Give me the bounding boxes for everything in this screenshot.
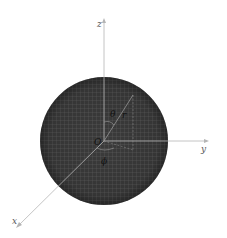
origin-label: O bbox=[94, 137, 102, 147]
r-label: r bbox=[122, 110, 127, 120]
theta-label: θ bbox=[110, 109, 116, 119]
z-axis-label: z bbox=[96, 19, 102, 29]
z-arrow-icon bbox=[102, 18, 106, 23]
spherical-coordinates-diagram: z y x O θ r ϕ bbox=[0, 0, 227, 238]
phi-label: ϕ bbox=[101, 156, 107, 166]
y-arrow-icon bbox=[204, 139, 209, 143]
y-axis-label: y bbox=[200, 144, 207, 154]
x-axis-label: x bbox=[12, 216, 17, 226]
